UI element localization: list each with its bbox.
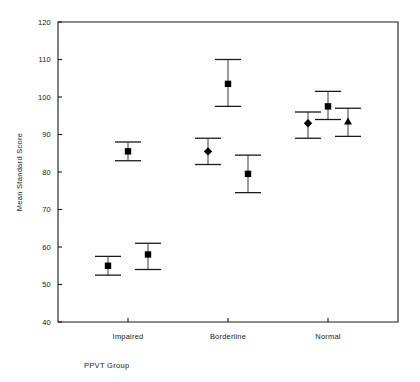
y-tick-label: 50: [42, 280, 51, 289]
data-point-group: [335, 108, 361, 136]
y-tick-label: 100: [38, 93, 51, 102]
data-point-group: [115, 142, 141, 161]
data-point-group: [295, 112, 321, 138]
mean-marker: [204, 147, 212, 155]
data-point-group: [235, 155, 261, 193]
y-tick-label: 120: [38, 18, 51, 27]
mean-marker: [304, 119, 312, 127]
chart-figure: 405060708090100110120ImpairedBorderlineN…: [0, 0, 420, 382]
y-tick-label: 80: [42, 168, 51, 177]
mean-marker: [225, 81, 231, 87]
data-point-group: [315, 91, 341, 119]
mean-marker: [125, 148, 131, 154]
x-category-label: Borderline: [210, 332, 246, 341]
y-tick-label: 70: [42, 205, 51, 214]
y-tick-label: 90: [42, 130, 51, 139]
y-tick-label: 60: [42, 243, 51, 252]
mean-marker: [325, 103, 331, 109]
data-point-group: [135, 243, 161, 269]
y-axis-title: Mean Standard Score: [15, 133, 24, 212]
mean-marker: [105, 263, 111, 269]
mean-marker: [145, 251, 151, 257]
data-point-group: [215, 60, 241, 107]
x-category-label: Normal: [315, 332, 341, 341]
y-tick-label: 40: [42, 318, 51, 327]
mean-marker: [245, 171, 251, 177]
data-point-group: [95, 256, 121, 275]
error-bar-plot: 405060708090100110120ImpairedBorderlineN…: [0, 0, 420, 382]
x-category-label: Impaired: [113, 332, 144, 341]
data-point-group: [195, 138, 221, 164]
x-axis-title: PPVT Group: [84, 361, 129, 370]
mean-marker: [344, 117, 352, 124]
y-tick-label: 110: [38, 55, 51, 64]
